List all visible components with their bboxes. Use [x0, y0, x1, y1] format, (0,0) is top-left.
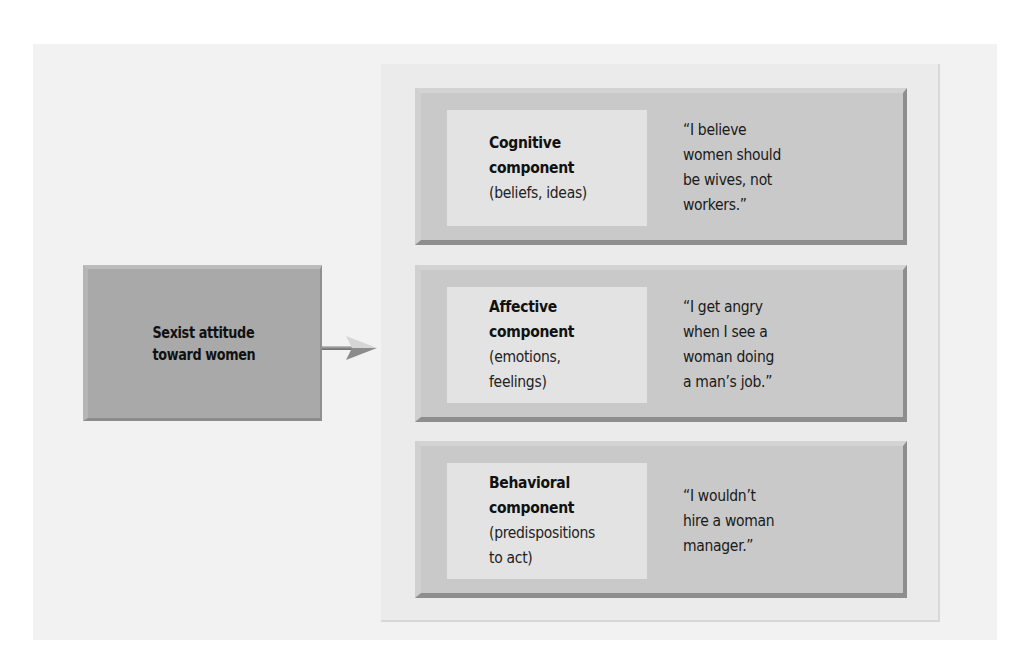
cognitive-component-label: Cognitive component (beliefs, ideas) — [447, 110, 647, 226]
right-arrow-icon — [322, 333, 380, 363]
behavioral-component-box: Behavioral component (predispositions to… — [415, 441, 907, 598]
component-quote: “I wouldn’t hire a woman manager.” — [683, 463, 883, 579]
affective-component-label: Affective component (emotions, feelings) — [447, 287, 647, 403]
source-attitude-label: Sexist attitude toward women — [153, 322, 256, 366]
component-title: Cognitive component — [489, 131, 647, 181]
component-quote: “I get angry when I see a woman doing a … — [683, 287, 883, 403]
source-attitude-box: Sexist attitude toward women — [83, 265, 322, 421]
component-quote: “I believe women should be wives, not wo… — [683, 110, 883, 226]
cognitive-component-box: Cognitive component (beliefs, ideas) “I … — [415, 88, 907, 245]
behavioral-component-label: Behavioral component (predispositions to… — [447, 463, 647, 579]
component-description: (beliefs, ideas) — [489, 181, 647, 206]
component-description: (predispositions to act) — [489, 521, 647, 571]
component-title: Affective component — [489, 295, 647, 345]
affective-component-box: Affective component (emotions, feelings)… — [415, 265, 907, 422]
component-description: (emotions, feelings) — [489, 345, 647, 395]
component-title: Behavioral component — [489, 471, 647, 521]
